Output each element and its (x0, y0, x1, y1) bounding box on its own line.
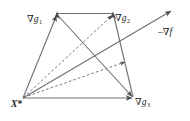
arrowhead-g1 (54, 12, 60, 20)
label-grad-g2: ∇g2 (115, 8, 130, 24)
nabla-icon-g1: ∇ (27, 13, 34, 24)
nabla-icon-f: ∇ (163, 26, 170, 37)
nabla-icon-g2: ∇ (115, 12, 122, 23)
nabla-icon-g3: ∇ (135, 96, 142, 107)
label-grad-g3: ∇g3 (135, 92, 150, 108)
vector-grad-g1 (23, 16, 57, 99)
label-neg-grad-f: –∇f (158, 22, 172, 38)
vector-cone-diagram: ∇g1 ∇g2 ∇g3 –∇f X* (0, 0, 190, 121)
label-grad-g3-var: g (142, 97, 147, 107)
label-grad-g2-sub: 2 (127, 17, 131, 24)
label-grad-g3-sub: 3 (147, 101, 151, 108)
label-grad-g1: ∇g1 (27, 9, 42, 25)
label-origin-star: * (17, 99, 22, 109)
label-grad-g2-var: g (122, 13, 127, 23)
label-grad-g1-var: g (34, 14, 39, 24)
label-grad-g1-sub: 1 (39, 18, 43, 25)
label-origin-x-star: X* (11, 100, 22, 110)
vector-neg-grad-f (23, 11, 171, 98)
label-neg-grad-f-var: f (170, 27, 173, 37)
dashed-ray-to-g2 (24, 16, 113, 98)
edge-g2-g3 (114, 15, 134, 98)
